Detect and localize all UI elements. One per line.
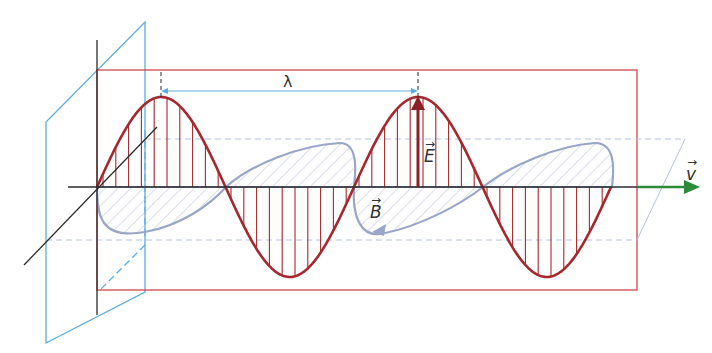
wavelength-label: λ xyxy=(283,72,292,91)
vector-arrow-icon: → xyxy=(371,193,381,207)
electric-field-label: → E xyxy=(424,146,435,166)
magnetic-field-label: → B xyxy=(370,202,382,222)
em-wave-diagram xyxy=(0,0,712,353)
magnetic-wave xyxy=(97,143,613,236)
vector-arrow-icon: → xyxy=(687,155,697,169)
velocity-label: → v xyxy=(686,164,696,184)
vector-arrow-icon: → xyxy=(425,137,435,151)
